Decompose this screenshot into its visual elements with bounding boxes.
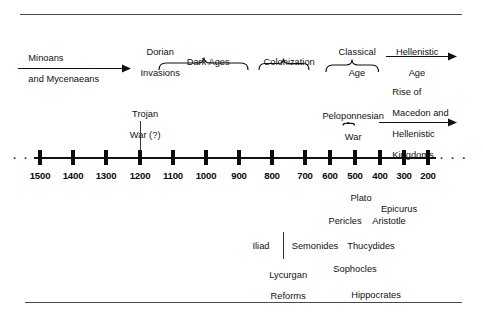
figure-label: Epicurus [381, 204, 417, 215]
axis-tick [303, 150, 307, 165]
figure-label: Aristotle [372, 216, 406, 227]
figure-label: Thucydides [347, 241, 395, 252]
axis-tick [353, 150, 357, 165]
axis-tick [378, 150, 382, 165]
axis-tick [402, 150, 406, 165]
axis-tick [426, 150, 430, 165]
figure-label: Semonides [292, 241, 339, 252]
axis-tick [204, 150, 208, 165]
axis-tick-label: 900 [231, 170, 246, 181]
axis-tick [237, 150, 241, 165]
axis-tick [104, 150, 108, 165]
axis-tick [138, 150, 142, 165]
axis-tick [71, 150, 75, 165]
figure-label: Hippocrates [351, 290, 401, 301]
axis-tick [328, 150, 332, 165]
lycurgan-line2: Reforms [271, 291, 306, 301]
timeline-figure: Minoans and Mycenaeans Dorian Invasions … [0, 0, 483, 320]
figure-label: Sophocles [333, 264, 376, 275]
axis-tick [270, 150, 274, 165]
axis-tick-label: 200 [420, 170, 435, 181]
axis-tick-label: 800 [264, 170, 279, 181]
axis-ellipsis-right: · · · [440, 152, 468, 164]
axis-tick-label: 1200 [130, 170, 151, 181]
axis-tick-label: 400 [372, 170, 387, 181]
axis-tick [38, 150, 42, 165]
axis-tick-label: 1300 [96, 170, 117, 181]
axis-tick [171, 150, 175, 165]
axis-tick-label: 700 [297, 170, 312, 181]
axis-tick-label: 600 [322, 170, 337, 181]
figure-label: Pericles [328, 216, 361, 227]
axis-tick-label: 1500 [30, 170, 51, 181]
figure-label: Iliad [252, 241, 269, 252]
event-label-lycurgan-reforms: Lycurgan Reforms [259, 259, 307, 312]
figure-label: Plato [350, 193, 371, 204]
axis-tick-label: 500 [347, 170, 362, 181]
axis-tick-label: 1000 [196, 170, 217, 181]
timeline-axis-line [34, 157, 436, 159]
axis-tick-label: 1400 [63, 170, 84, 181]
lycurgan-reforms-leader-line [283, 232, 284, 259]
axis-tick-label: 300 [396, 170, 411, 181]
axis-tick-label: 1100 [163, 170, 183, 181]
lycurgan-line1: Lycurgan [269, 270, 307, 280]
